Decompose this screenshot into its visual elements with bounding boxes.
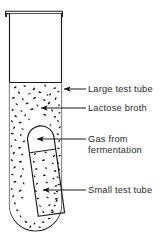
- label-small-test-tube: Small test tube: [88, 185, 152, 196]
- label-lactose-broth: Lactose broth: [88, 103, 147, 114]
- diagram-canvas: Gas from fermentation: [0, 0, 162, 241]
- label-gas-line-1: Gas from: [88, 134, 128, 144]
- label-large-test-tube: Large test tube: [88, 84, 153, 95]
- lactose-broth-region: [8, 82, 63, 232]
- label-gas-from-fermentation: Gas fromfermentation: [88, 134, 142, 156]
- fermentation-diagram-figure: Gas from fermentation Large test tube La…: [0, 0, 162, 241]
- label-gas-line-2: fermentation: [88, 145, 142, 155]
